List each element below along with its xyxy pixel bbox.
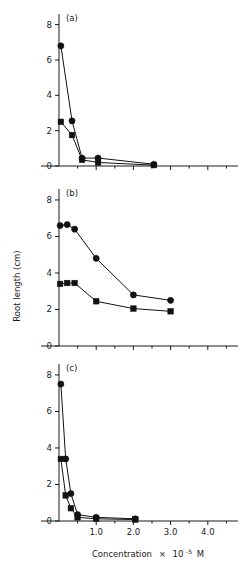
panel-a: (a) 02468 [41, 13, 238, 171]
data-point-square [168, 309, 174, 315]
series-line-square [60, 283, 170, 311]
y-tick-label: 0 [47, 161, 52, 171]
series-line-circle [61, 46, 154, 164]
data-point-square [131, 306, 137, 312]
y-tick-label: 4 [47, 90, 52, 100]
data-point-circle [93, 255, 99, 261]
figure-root-length-vs-concentration: Root length (cm) (a) 02468 (b) 02468 (c) [0, 0, 242, 572]
data-point-square [151, 162, 157, 168]
x-title-exponent: -5 [186, 548, 192, 555]
data-point-square [58, 456, 64, 462]
panel-c-x-ticks [78, 521, 227, 525]
data-point-square [79, 157, 85, 163]
data-point-circle [69, 118, 75, 124]
panel-c-data [58, 381, 139, 522]
y-tick-label: 4 [47, 443, 52, 453]
data-point-square [69, 132, 75, 138]
data-point-square [72, 280, 78, 286]
data-point-circle [130, 292, 136, 298]
y-axis-title-text: Root length (cm) [12, 250, 22, 321]
data-point-square [75, 515, 81, 521]
y-tick-label: 0 [47, 341, 52, 351]
data-point-circle [57, 222, 63, 228]
panel-c: (c) 02468 1.02.03.04.0 [41, 363, 238, 537]
x-axis-title-text: Concentration × 10 -5 M [92, 546, 204, 560]
x-tick-label: 4.0 [201, 527, 215, 537]
x-title-times: × [159, 549, 166, 559]
y-tick-label: 2 [47, 126, 52, 136]
panel-a-data [58, 43, 157, 168]
series-line-circle [60, 225, 170, 301]
x-axis-title: Concentration × 10 -5 M [92, 546, 204, 560]
panel-b-x-ticks [78, 346, 227, 350]
data-point-square [93, 298, 99, 304]
data-point-square [68, 505, 74, 511]
y-tick-label: 6 [47, 231, 52, 241]
y-tick-label: 0 [47, 516, 52, 526]
data-point-square [64, 280, 70, 286]
panel-c-y-ticklabels: 02468 [47, 370, 52, 526]
data-point-circle [72, 226, 78, 232]
data-point-square [63, 493, 69, 499]
data-point-square [57, 281, 63, 287]
panel-b: (b) 02468 [41, 188, 238, 351]
figure-canvas: Root length (cm) (a) 02468 (b) 02468 (c) [0, 0, 242, 572]
x-tick-label: 2.0 [127, 527, 141, 537]
data-point-circle [58, 43, 64, 49]
data-point-circle [168, 297, 174, 303]
x-tick-label: 3.0 [164, 527, 178, 537]
y-tick-label: 8 [47, 20, 52, 30]
panel-b-label: (b) [66, 188, 78, 198]
panel-c-y-ticks [55, 375, 59, 521]
data-point-square [93, 516, 99, 522]
x-tick-label: 1.0 [89, 527, 103, 537]
y-tick-label: 8 [47, 370, 52, 380]
y-tick-label: 6 [47, 406, 52, 416]
panel-b-y-ticklabels: 02468 [47, 195, 52, 351]
panel-b-y-ticks [55, 200, 59, 346]
y-tick-label: 4 [47, 268, 52, 278]
y-tick-label: 8 [47, 195, 52, 205]
y-tick-label: 2 [47, 304, 52, 314]
panel-b-data [57, 221, 174, 314]
panel-c-label: (c) [66, 363, 77, 373]
y-tick-label: 2 [47, 479, 52, 489]
data-point-circle [64, 221, 70, 227]
panel-a-y-ticklabels: 02468 [47, 20, 52, 171]
panel-a-label: (a) [66, 13, 78, 23]
x-title-base: 10 [173, 549, 184, 559]
x-title-prefix: Concentration [92, 549, 152, 559]
data-point-square [132, 517, 138, 523]
x-title-unit: M [197, 549, 204, 559]
data-point-circle [58, 381, 64, 387]
panel-c-x-ticklabels: 1.02.03.04.0 [89, 527, 214, 537]
series-line-circle [61, 384, 135, 519]
data-point-square [58, 119, 64, 125]
y-axis-title: Root length (cm) [12, 250, 22, 321]
y-tick-label: 6 [47, 55, 52, 65]
data-point-square [95, 160, 101, 166]
